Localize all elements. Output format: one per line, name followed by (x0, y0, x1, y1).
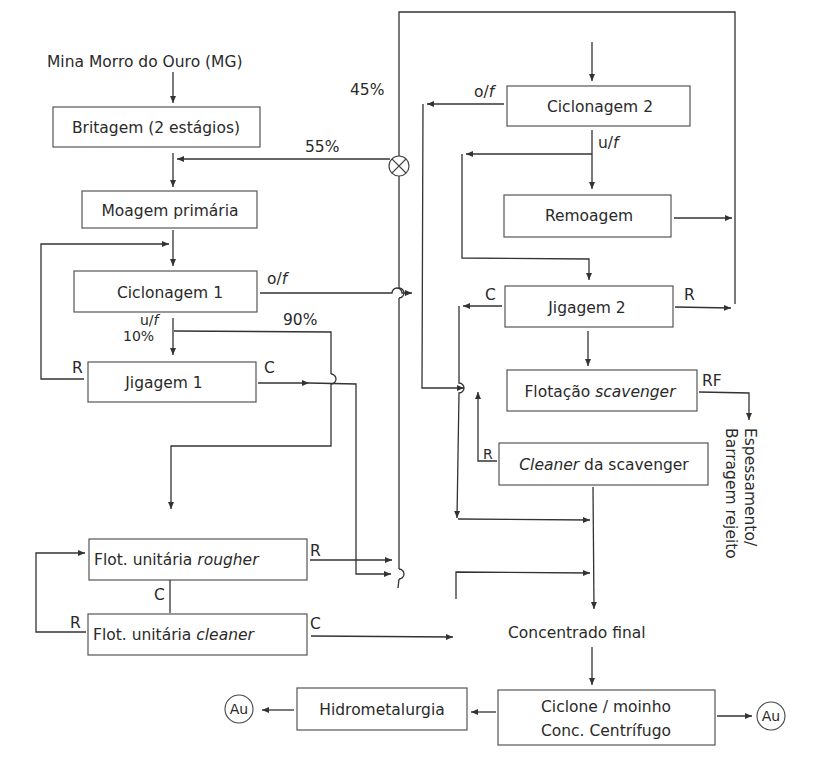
source-label: Mina Morro do Ouro (MG) (47, 53, 243, 71)
svg-text:o/f: o/f (267, 270, 290, 288)
svg-text:Barragem rejeito: Barragem rejeito (722, 428, 740, 559)
label-of-1: o/ (267, 270, 282, 288)
node-moagem-primaria: Moagem primária (82, 191, 257, 228)
node-remoagem: Remoagem (504, 195, 671, 237)
svg-text:Au: Au (230, 701, 248, 717)
svg-text:Espessamento/: Espessamento/ (741, 428, 759, 547)
label-90pct: 90% (283, 311, 317, 329)
gold-output-left: Au (225, 695, 253, 723)
svg-text:Ciclone / moinho: Ciclone / moinho (541, 698, 671, 716)
label-jig2-r: R (684, 286, 695, 304)
node-ciclonagem-2: Ciclonagem 2 (507, 86, 690, 126)
label-55pct: 55% (305, 138, 339, 156)
label-rougher-c: C (154, 586, 165, 604)
svg-text:u/f: u/f (598, 134, 621, 152)
svg-text:u/f: u/f (140, 312, 161, 328)
label-45pct: 45% (350, 81, 384, 99)
svg-text:Conc. Centrífugo: Conc. Centrífugo (541, 722, 671, 740)
node-jigagem-1: Jigagem 1 (88, 362, 256, 402)
label-10pct: 10% (123, 328, 154, 344)
label-cleaner-c: C (310, 615, 321, 633)
svg-text:o/f: o/f (474, 83, 497, 101)
label-jig2-c: C (485, 286, 496, 304)
label-rf: RF (702, 372, 722, 390)
node-ciclone-moinho: Ciclone / moinho Conc. Centrífugo (498, 690, 715, 745)
svg-text:Cleaner da scavenger: Cleaner da scavenger (519, 456, 689, 474)
label-of-2: o/ (474, 83, 489, 101)
label-cleaner-scav-r: R (483, 446, 493, 462)
splitter-icon (389, 156, 409, 176)
node-jigagem-2: Jigagem 2 (505, 286, 673, 327)
tailings-label: Espessamento/ Barragem rejeito (722, 428, 759, 559)
node-flotacao-scavenger: Flotação scavenger (507, 370, 697, 411)
node-flot-unitaria-rougher: Flot. unitária rougher (89, 539, 307, 580)
svg-text:Flot. unitária cleaner: Flot. unitária cleaner (93, 626, 256, 644)
svg-text:Moagem primária: Moagem primária (101, 202, 238, 220)
svg-text:Hidrometalurgia: Hidrometalurgia (319, 701, 444, 719)
label-jig1-c: C (264, 359, 275, 377)
label-jig1-r: R (72, 359, 83, 377)
node-cleaner-da-scavenger: Cleaner da scavenger (499, 443, 708, 485)
node-britagem: Britagem (2 estágios) (53, 107, 260, 147)
svg-text:Au: Au (762, 708, 780, 724)
flowchart-diagram: Mina Morro do Ouro (MG) Britagem (2 está… (0, 0, 815, 783)
svg-text:Flotação scavenger: Flotação scavenger (524, 383, 677, 401)
svg-text:Ciclonagem 1: Ciclonagem 1 (117, 284, 223, 302)
label-uf-2: u/ (598, 134, 614, 152)
label-cleaner-r: R (70, 614, 81, 632)
svg-text:Flot. unitária rougher: Flot. unitária rougher (94, 551, 260, 569)
label-rougher-r: R (310, 542, 321, 560)
svg-text:Jigagem 1: Jigagem 1 (124, 374, 202, 392)
node-hidrometalurgia: Hidrometalurgia (297, 688, 467, 730)
svg-text:Britagem (2 estágios): Britagem (2 estágios) (72, 119, 240, 137)
node-ciclonagem-1: Ciclonagem 1 (74, 271, 257, 312)
label-uf-1: u/ (140, 312, 154, 328)
svg-text:Remoagem: Remoagem (545, 207, 633, 225)
node-flot-unitaria-cleaner: Flot. unitária cleaner (88, 614, 307, 655)
gold-output-right: Au (757, 702, 785, 730)
node-concentrado-final: Concentrado final (508, 624, 646, 642)
svg-text:Ciclonagem 2: Ciclonagem 2 (547, 98, 653, 116)
svg-text:Jigagem 2: Jigagem 2 (547, 299, 625, 317)
